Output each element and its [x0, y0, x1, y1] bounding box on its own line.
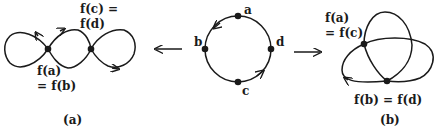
point-b [202, 46, 209, 53]
crossing-point-ab [45, 46, 52, 53]
crossing-point-bd [384, 78, 391, 85]
crossing-point-cd [88, 46, 95, 53]
caption-b: (b) [380, 113, 400, 127]
label-d: d [276, 35, 285, 49]
curve-a [5, 29, 135, 69]
label-fa-fb-line2: = f(b) [37, 79, 76, 93]
point-d [268, 46, 275, 53]
label-fa-fc-line2: = f(c) [325, 26, 363, 40]
diagram-canvas: f(c) = f(d) f(a) = f(b) (a) a b c d f(a)… [0, 0, 439, 140]
label-fc-fd-line2: f(d) [80, 17, 105, 31]
label-b: b [194, 35, 202, 49]
label-fc-fd-line1: f(c) = [80, 2, 118, 16]
caption-a: (a) [63, 113, 82, 127]
label-c: c [242, 84, 249, 98]
label-fb-fd: f(b) = f(d) [354, 93, 422, 107]
point-a [235, 13, 242, 20]
curve-b [342, 12, 433, 82]
point-c [235, 79, 242, 86]
label-fa-fc-line1: f(a) [325, 11, 349, 25]
label-fa-fb-line1: f(a) [37, 64, 61, 78]
source-circle [205, 16, 271, 82]
crossing-point-ac [361, 41, 368, 48]
label-a: a [244, 3, 252, 17]
